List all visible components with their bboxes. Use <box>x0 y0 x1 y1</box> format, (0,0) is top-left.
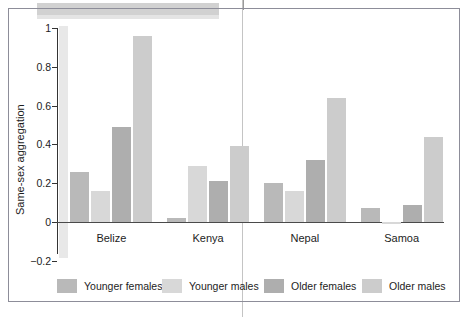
bar <box>382 222 401 224</box>
legend-item: Younger males <box>162 279 259 293</box>
y-tick-label: −0.2 <box>30 255 51 267</box>
bar <box>167 218 186 222</box>
y-tick-label: 0.2 <box>36 177 51 189</box>
bar-group <box>70 28 152 222</box>
x-axis-category-label: Kenya <box>193 232 224 244</box>
y-tick-label: 0.8 <box>36 61 51 73</box>
legend-swatch <box>362 279 382 293</box>
y-tick-label: 0 <box>45 216 51 228</box>
y-tick-mark <box>52 222 57 223</box>
bar <box>403 205 422 222</box>
y-tick-label: 1 <box>45 22 51 34</box>
bar <box>133 36 152 222</box>
bar <box>70 172 89 222</box>
x-axis-category-label: Belize <box>96 232 126 244</box>
legend-item: Older males <box>362 279 446 293</box>
bar <box>285 191 304 222</box>
bar <box>264 183 283 222</box>
bar <box>424 137 443 222</box>
legend-label: Younger males <box>189 280 259 292</box>
x-axis-category-label: Nepal <box>291 232 320 244</box>
bar <box>230 146 249 222</box>
legend-label: Younger females <box>84 280 162 292</box>
y-tick-mark <box>52 261 57 262</box>
legend-swatch <box>264 279 284 293</box>
plot-area: 10.80.60.40.20−0.2 <box>57 28 444 222</box>
x-axis-category-label: Samoa <box>384 232 419 244</box>
bar-group <box>361 28 443 222</box>
legend-item: Older females <box>264 279 356 293</box>
y-axis-title: Same-sex aggregation <box>14 85 26 215</box>
bar <box>306 160 325 222</box>
legend-swatch <box>162 279 182 293</box>
bar <box>112 127 131 222</box>
bar <box>327 98 346 222</box>
bar-group <box>264 28 346 222</box>
chart-legend: Younger femalesYounger malesOlder female… <box>57 276 449 296</box>
bar <box>361 208 380 222</box>
bar-group <box>167 28 249 222</box>
bar-series-container <box>57 28 444 222</box>
bar <box>209 181 228 222</box>
y-tick-label: 0.4 <box>36 138 51 150</box>
legend-label: Older females <box>291 280 356 292</box>
legend-label: Older males <box>389 280 446 292</box>
legend-item: Younger females <box>57 279 162 293</box>
bar <box>91 191 110 222</box>
y-axis-extension <box>57 222 58 254</box>
bar <box>188 166 207 222</box>
legend-swatch <box>57 279 77 293</box>
y-tick-label: 0.6 <box>36 100 51 112</box>
